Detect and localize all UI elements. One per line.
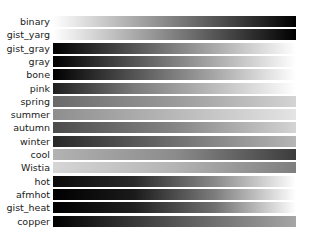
colormap-label: gist_yarg [7, 28, 50, 41]
colormap-gradient-bar [53, 56, 296, 67]
colormap-row-summer: summer [0, 109, 311, 120]
colormap-row-bone: bone [0, 69, 311, 80]
colormap-gradient-bar [53, 96, 296, 107]
colormap-label: bone [26, 68, 50, 81]
colormap-row-pink: pink [0, 83, 311, 94]
colormap-label: cool [31, 148, 51, 161]
colormap-gradient-bar [53, 122, 296, 133]
colormap-row-cool: cool [0, 149, 311, 160]
colormap-row-wistia: Wistia [0, 162, 311, 173]
colormap-gradient-bar [53, 216, 296, 227]
colormap-row-copper: copper [0, 216, 311, 227]
colormap-label: pink [30, 82, 50, 95]
colormap-gradient-bar [53, 16, 296, 27]
colormap-label: gist_heat [6, 201, 50, 214]
colormap-label: summer [11, 108, 50, 121]
colormap-gradient-bar [53, 83, 296, 94]
colormap-gradient-bar [53, 189, 296, 200]
colormap-label: copper [17, 215, 50, 228]
colormap-row-autumn: autumn [0, 122, 311, 133]
colormap-label: gist_gray [7, 42, 50, 55]
colormap-row-hot: hot [0, 176, 311, 187]
colormap-label: hot [34, 175, 50, 188]
colormap-row-afmhot: afmhot [0, 189, 311, 200]
colormap-gradient-bar [53, 162, 296, 173]
colormap-row-winter: winter [0, 136, 311, 147]
colormap-gradient-bar [53, 202, 296, 213]
colormap-gradient-bar [53, 109, 296, 120]
colormap-gradient-bar [53, 176, 296, 187]
colormap-row-binary: binary [0, 16, 311, 27]
colormap-row-gist-gray: gist_gray [0, 43, 311, 54]
colormap-gradient-bar [53, 29, 296, 40]
colormap-row-gist-heat: gist_heat [0, 202, 311, 213]
colormap-label: autumn [13, 121, 50, 134]
colormap-label: winter [20, 135, 50, 148]
colormap-figure: binarygist_yarggist_graygraybonepinkspri… [0, 0, 311, 248]
colormap-row-gray: gray [0, 56, 311, 67]
colormap-label: spring [20, 95, 50, 108]
colormap-label: gray [29, 55, 50, 68]
colormap-label: Wistia [21, 161, 50, 174]
colormap-gradient-bar [53, 149, 296, 160]
colormap-label: afmhot [16, 188, 50, 201]
colormap-row-gist-yarg: gist_yarg [0, 29, 311, 40]
colormap-label: binary [20, 15, 50, 28]
colormap-row-spring: spring [0, 96, 311, 107]
colormap-gradient-bar [53, 69, 296, 80]
colormap-gradient-bar [53, 136, 296, 147]
colormap-gradient-bar [53, 43, 296, 54]
